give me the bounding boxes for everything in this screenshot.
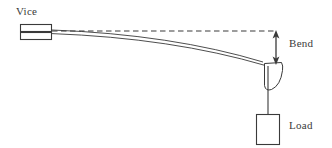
diagram-canvas (0, 0, 332, 148)
cantilever-bend-diagram: Vice Bend Load (0, 0, 332, 148)
load-label: Load (289, 120, 313, 131)
beam-lower-edge (52, 34, 265, 66)
vice-lower-jaw (21, 33, 52, 40)
bend-label: Bend (289, 38, 313, 49)
vice-label: Vice (16, 6, 37, 17)
vice-upper-jaw (21, 25, 52, 32)
hook-icon (265, 63, 283, 91)
load-box (257, 115, 280, 145)
